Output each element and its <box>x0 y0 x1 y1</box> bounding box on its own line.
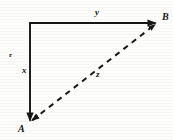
label-side-x: x <box>22 66 27 75</box>
segment-z-hypotenuse <box>32 25 154 120</box>
label-tick-r: r <box>9 52 12 59</box>
label-vertex-a: A <box>18 124 25 134</box>
label-vertex-b: B <box>162 12 169 22</box>
figure-canvas: y x z B A r <box>0 0 173 140</box>
label-side-z: z <box>96 70 100 79</box>
label-side-y: y <box>95 8 99 17</box>
